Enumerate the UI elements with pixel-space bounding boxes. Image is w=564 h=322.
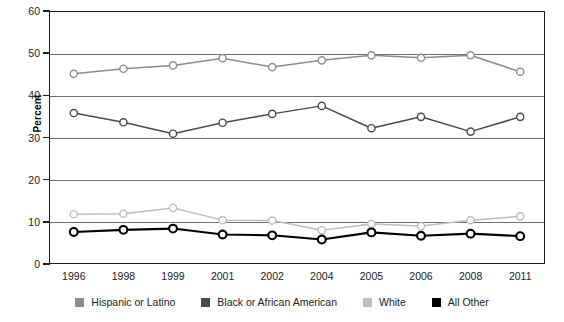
data-point-marker (70, 211, 77, 218)
y-tick-label: 60 (14, 6, 40, 16)
x-tick-label: 2011 (496, 270, 544, 282)
data-point-marker (120, 226, 128, 234)
series-all-other (70, 225, 524, 244)
data-point-marker (417, 54, 424, 61)
data-point-marker (169, 130, 176, 137)
data-point-marker (120, 119, 127, 126)
legend-label: Hispanic or Latino (91, 296, 175, 308)
y-tick-label: 20 (14, 175, 40, 185)
data-point-marker (417, 113, 424, 120)
data-point-marker (467, 128, 474, 135)
data-point-marker (219, 55, 226, 62)
data-point-marker (318, 236, 326, 244)
data-point-marker (70, 70, 77, 77)
data-point-marker (318, 227, 325, 234)
data-point-marker (70, 109, 77, 116)
legend-item[interactable]: All Other (432, 296, 489, 308)
y-tick-label: 0 (14, 259, 40, 269)
legend-label: White (379, 296, 406, 308)
data-point-marker (467, 52, 474, 59)
data-point-marker (268, 231, 276, 239)
data-point-marker (517, 213, 524, 220)
data-point-marker (516, 232, 524, 240)
data-point-marker (169, 62, 176, 69)
data-point-marker (417, 232, 425, 240)
y-tick-label: 30 (14, 133, 40, 143)
data-point-marker (169, 225, 177, 233)
x-tick-label: 2004 (298, 270, 346, 282)
legend-swatch-icon (201, 298, 210, 307)
data-point-marker (517, 68, 524, 75)
data-point-marker (318, 102, 325, 109)
series-layer (49, 11, 545, 264)
y-tick-label: 40 (14, 90, 40, 100)
data-point-marker (368, 228, 376, 236)
data-point-marker (467, 230, 475, 238)
data-point-marker (417, 222, 424, 229)
data-point-marker (368, 125, 375, 132)
data-point-marker (269, 110, 276, 117)
y-tick-label: 50 (14, 48, 40, 58)
data-point-marker (269, 63, 276, 70)
data-point-marker (219, 119, 226, 126)
legend-label: Black or African American (217, 296, 337, 308)
data-point-marker (70, 228, 78, 236)
legend-item[interactable]: Hispanic or Latino (75, 296, 175, 308)
x-tick-label: 1996 (50, 270, 98, 282)
data-point-marker (219, 217, 226, 224)
x-tick-label: 2008 (447, 270, 495, 282)
legend-label: All Other (448, 296, 489, 308)
data-point-marker (219, 231, 227, 239)
series-line (74, 55, 520, 74)
data-point-marker (517, 113, 524, 120)
series-line (74, 106, 520, 134)
data-point-marker (120, 210, 127, 217)
data-point-marker (368, 220, 375, 227)
x-tick-label: 2005 (347, 270, 395, 282)
y-tick-label: 10 (14, 217, 40, 227)
series-line (74, 229, 520, 240)
x-tick-label: 2001 (199, 270, 247, 282)
data-point-marker (269, 217, 276, 224)
legend-swatch-icon (75, 298, 84, 307)
data-point-marker (467, 217, 474, 224)
series-black-or-african-american (70, 102, 524, 137)
x-tick-label: 1998 (99, 270, 147, 282)
x-tick-label: 1999 (149, 270, 197, 282)
legend-swatch-icon (432, 298, 441, 307)
series-line (74, 208, 520, 230)
legend-swatch-icon (363, 298, 372, 307)
data-point-marker (169, 204, 176, 211)
x-tick-label: 2006 (397, 270, 445, 282)
data-point-marker (120, 65, 127, 72)
legend-item[interactable]: White (363, 296, 406, 308)
chart-figure: Percent 0102030405060 199619981999200120… (0, 0, 564, 322)
series-hispanic-or-latino (70, 52, 524, 78)
data-point-marker (318, 57, 325, 64)
x-tick-label: 2002 (248, 270, 296, 282)
data-point-marker (368, 52, 375, 59)
legend-item[interactable]: Black or African American (201, 296, 337, 308)
chart-legend: Hispanic or LatinoBlack or African Ameri… (0, 296, 564, 308)
